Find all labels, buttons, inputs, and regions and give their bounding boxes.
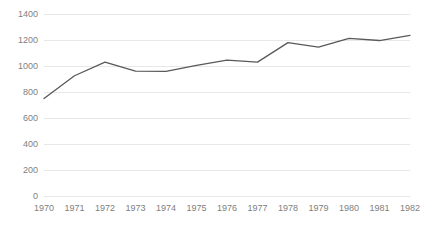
data-line-series-0 — [44, 35, 410, 98]
line-chart: 0200400600800100012001400 19701971197219… — [0, 0, 422, 235]
series-layer — [0, 0, 422, 235]
